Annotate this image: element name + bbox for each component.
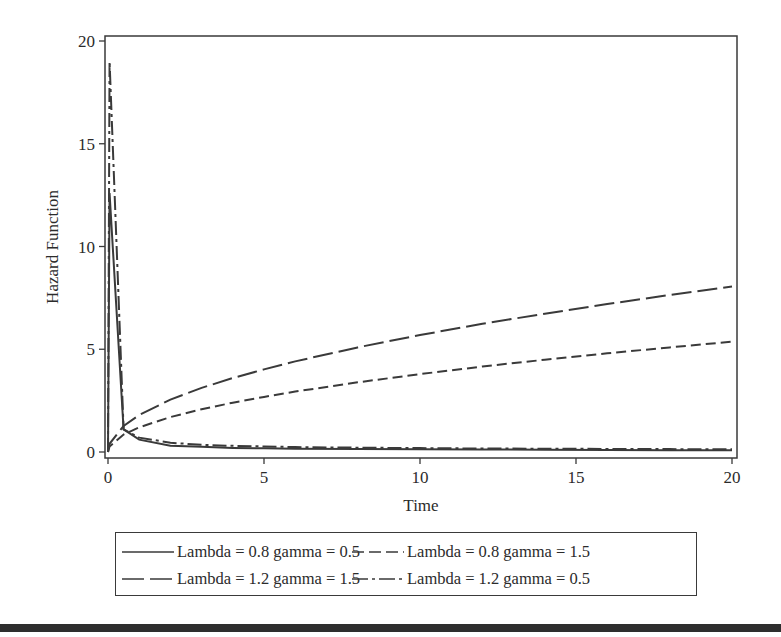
x-tick-label: 20 (724, 468, 741, 487)
legend-label: Lambda = 0.8 gamma = 1.5 (407, 542, 590, 562)
y-axis-label: Hazard Function (43, 190, 62, 304)
series-line-long-dash (108, 287, 732, 452)
x-tick-label: 10 (412, 468, 429, 487)
legend-label: Lambda = 1.2 gamma = 0.5 (407, 569, 590, 589)
y-axis: 05101520 (78, 32, 105, 462)
dash-dot-line-icon (352, 574, 404, 584)
x-tick-label: 5 (260, 468, 269, 487)
short-dash-line-icon (352, 547, 404, 557)
y-tick-label: 15 (78, 135, 95, 154)
y-tick-label: 0 (87, 443, 96, 462)
x-axis-label: Time (403, 496, 438, 515)
legend-label: Lambda = 1.2 gamma = 1.5 (177, 569, 360, 589)
y-tick-label: 20 (78, 32, 95, 51)
legend: Lambda = 0.8 gamma = 0.5 Lambda = 0.8 ga… (115, 532, 697, 596)
series-lines (108, 62, 732, 452)
x-tick-label: 0 (104, 468, 113, 487)
legend-item-dash-dot: Lambda = 1.2 gamma = 0.5 (352, 567, 590, 591)
legend-item-short-dash: Lambda = 0.8 gamma = 1.5 (352, 540, 590, 564)
series-line-solid (108, 193, 732, 452)
page-divider-bar (0, 624, 781, 632)
plot-frame (105, 36, 737, 458)
long-dash-line-icon (122, 574, 174, 584)
series-line-dash-dot (108, 62, 732, 452)
y-tick-label: 10 (78, 238, 95, 257)
legend-item-solid: Lambda = 0.8 gamma = 0.5 (122, 540, 360, 564)
series-line-short-dash (108, 342, 732, 452)
solid-line-icon (122, 547, 174, 557)
x-axis: 05101520 (104, 458, 741, 487)
x-tick-label: 15 (568, 468, 585, 487)
legend-label: Lambda = 0.8 gamma = 0.5 (177, 542, 360, 562)
legend-item-long-dash: Lambda = 1.2 gamma = 1.5 (122, 567, 360, 591)
y-tick-label: 5 (87, 340, 96, 359)
